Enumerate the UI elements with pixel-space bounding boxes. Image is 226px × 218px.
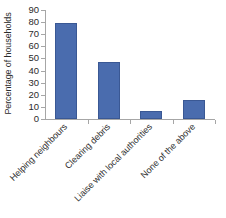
y-tick-mark: [41, 10, 45, 11]
y-tick-label: 80: [28, 17, 39, 27]
bar: [140, 111, 162, 119]
y-tick-mark: [41, 107, 45, 108]
y-tick-mark: [41, 83, 45, 84]
y-tick-label: 50: [28, 54, 39, 64]
y-tick-label: 30: [28, 78, 39, 88]
y-tick-label: 40: [28, 66, 39, 76]
y-tick-mark: [41, 22, 45, 23]
x-axis-labels: Helping neighboursClearing debrisLiaise …: [0, 120, 226, 218]
y-tick-label: 20: [28, 90, 39, 100]
y-tick-label: 10: [28, 102, 39, 112]
y-axis-title: Percentage of households: [1, 1, 15, 126]
bar-chart: Percentage of households 908070605040302…: [0, 0, 226, 218]
y-tick-mark: [41, 71, 45, 72]
bar: [183, 100, 205, 119]
y-axis-line: [45, 10, 46, 120]
y-tick-mark: [41, 46, 45, 47]
y-tick-label: 60: [28, 42, 39, 52]
y-tick-mark: [41, 34, 45, 35]
y-tick-label: 90: [28, 5, 39, 15]
bar: [98, 62, 120, 119]
plot-area: 9080706050403020100: [45, 10, 215, 120]
y-tick-mark: [41, 58, 45, 59]
bar: [55, 23, 77, 119]
y-tick-mark: [41, 95, 45, 96]
y-tick-label: 70: [28, 29, 39, 39]
